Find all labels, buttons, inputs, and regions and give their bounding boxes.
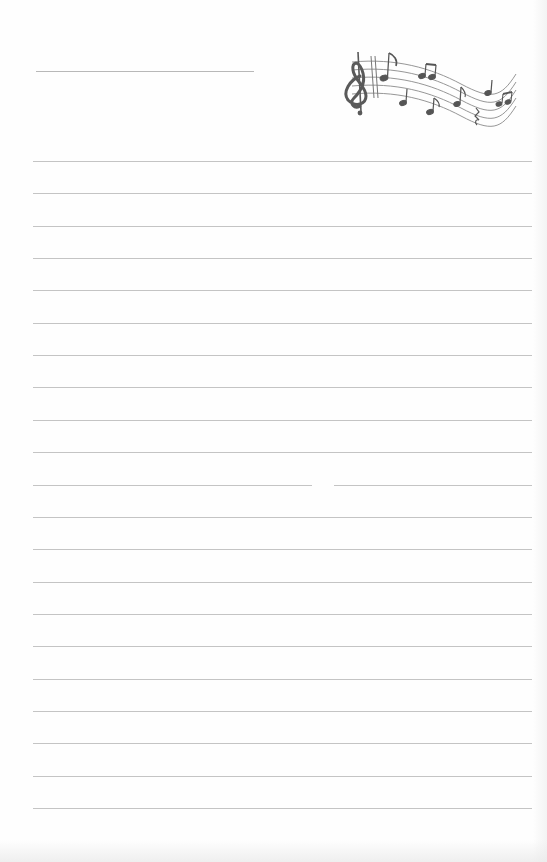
- ruled-line: [33, 549, 532, 550]
- ruled-line: [33, 290, 532, 291]
- notepaper-page: [0, 0, 547, 862]
- ruled-line: [33, 614, 532, 615]
- scan-gap: [312, 484, 334, 487]
- ruled-line: [33, 258, 532, 259]
- ruled-line: [33, 808, 532, 809]
- ruled-line: [33, 776, 532, 777]
- title-write-line: [36, 71, 254, 72]
- paper-edge-shadow: [533, 0, 547, 862]
- ruled-line: [33, 323, 532, 324]
- paper-bottom-shadow: [0, 840, 547, 862]
- ruled-line: [33, 582, 532, 583]
- ruled-line: [33, 711, 532, 712]
- ruled-line: [33, 193, 532, 194]
- ruled-line: [33, 355, 532, 356]
- ruled-line: [33, 161, 532, 162]
- ruled-line: [33, 420, 532, 421]
- ruled-line: [33, 226, 532, 227]
- ruled-line: [33, 517, 532, 518]
- ruled-line: [33, 387, 532, 388]
- ruled-line: [33, 743, 532, 744]
- ruled-line: [33, 646, 532, 647]
- ruled-line: [33, 679, 532, 680]
- ruled-line: [33, 485, 532, 486]
- music-notes-icon: [336, 40, 518, 136]
- ruled-line: [33, 452, 532, 453]
